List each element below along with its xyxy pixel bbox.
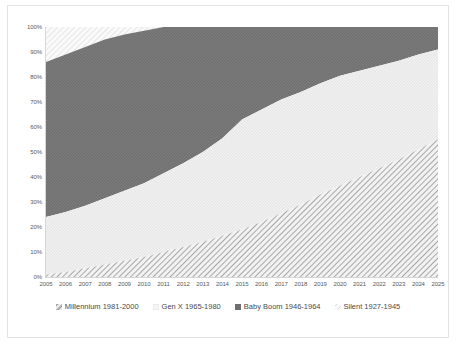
legend-item-silent[interactable]: Silent 1927-1945 (335, 303, 401, 311)
x-axis-tick: 2019 (314, 281, 327, 287)
x-axis-tick: 2007 (79, 281, 92, 287)
x-axis-tick: 2009 (118, 281, 131, 287)
legend-item-babyboom[interactable]: Baby Boom 1946-1964 (235, 303, 321, 311)
stacked-area-plot (46, 27, 438, 277)
x-axis-tick: 2006 (59, 281, 72, 287)
x-axis-line (45, 277, 438, 278)
plot-wrapper: 0%10%20%30%40%50%60%70%80%90%100% (46, 27, 438, 277)
legend-label-genx: Gen X 1965-1980 (162, 303, 221, 311)
legend-label-millennium: Millennium 1981-2000 (65, 303, 139, 311)
legend-swatch-babyboom-icon (235, 304, 241, 310)
x-axis-tick-labels: 2005200620072008200920102011201220132014… (46, 281, 438, 293)
x-axis-tick: 2025 (432, 281, 445, 287)
y-axis-tick: 100% (27, 24, 42, 30)
x-axis-tick: 2015 (236, 281, 249, 287)
y-axis-tick: 10% (30, 249, 42, 255)
legend-item-millennium[interactable]: Millennium 1981-2000 (56, 303, 139, 311)
area-chart-svg (46, 27, 438, 277)
x-axis-tick: 2024 (412, 281, 425, 287)
y-axis-tick: 40% (30, 174, 42, 180)
x-axis-tick: 2017 (275, 281, 288, 287)
x-axis-tick: 2014 (216, 281, 229, 287)
x-axis-tick: 2012 (177, 281, 190, 287)
x-axis-tick: 2021 (353, 281, 366, 287)
x-axis-tick: 2020 (334, 281, 347, 287)
legend-item-genx[interactable]: Gen X 1965-1980 (153, 303, 221, 311)
y-axis-tick: 80% (30, 74, 42, 80)
x-axis-tick: 2023 (392, 281, 405, 287)
x-axis-tick: 2011 (157, 281, 170, 287)
x-axis-tick: 2013 (196, 281, 209, 287)
legend-label-babyboom: Baby Boom 1946-1964 (244, 303, 321, 311)
legend-swatch-silent-icon (335, 304, 341, 310)
legend-swatch-genx-icon (153, 304, 159, 310)
y-axis-tick: 90% (30, 49, 42, 55)
x-axis-tick: 2005 (40, 281, 53, 287)
y-axis-tick: 50% (30, 149, 42, 155)
y-axis-tick: 70% (30, 99, 42, 105)
y-axis-tick: 60% (30, 124, 42, 130)
legend-label-silent: Silent 1927-1945 (344, 303, 401, 311)
legend-swatch-millennium-icon (56, 304, 62, 310)
y-axis-tick: 0% (34, 274, 42, 280)
chart-legend: Millennium 1981-2000 Gen X 1965-1980 Bab… (8, 303, 448, 311)
x-axis-tick: 2018 (294, 281, 307, 287)
x-axis-tick: 2022 (373, 281, 386, 287)
x-axis-tick: 2008 (98, 281, 111, 287)
chart-figure: 0%10%20%30%40%50%60%70%80%90%100% (7, 5, 449, 338)
y-axis-tick: 20% (30, 224, 42, 230)
x-axis-tick: 2016 (255, 281, 268, 287)
x-axis-tick: 2010 (138, 281, 151, 287)
y-axis-tick: 30% (30, 199, 42, 205)
